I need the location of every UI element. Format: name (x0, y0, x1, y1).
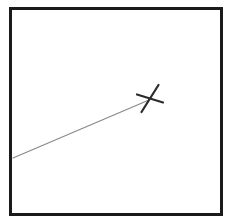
figure-canvas: Diagram with leader line and X mark (0, 0, 229, 224)
figure-svg: Diagram with leader line and X mark (0, 0, 229, 224)
border-rectangle (10, 8, 221, 214)
